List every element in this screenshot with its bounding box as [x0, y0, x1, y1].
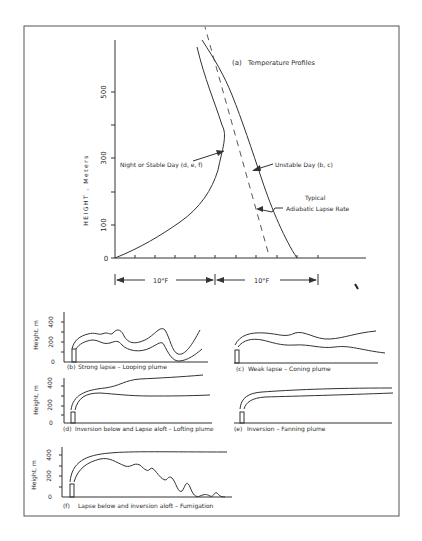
panel-f-ytick-0: 0: [48, 493, 52, 500]
figure: 0 100 300 500 HEIGHT , Meters (a) Temper…: [0, 0, 422, 541]
adiabatic-label-typical: Typical: [304, 194, 326, 202]
adiabatic-label: Adiabatic Lapse Rate: [286, 205, 349, 213]
panel-d-caption: Inversion below and Lapse aloft – Loftin…: [75, 426, 214, 433]
panel-f-caption: Lapse below and inversion aloft – Fumiga…: [78, 502, 214, 510]
panel-d-ytick-400: 400: [46, 377, 53, 389]
adiabatic-arrowhead: [256, 206, 263, 212]
figure-frame: [24, 26, 399, 516]
stable-label: Night or Stable Day (d, e, f): [120, 161, 203, 169]
panel-c-letter: (c): [236, 365, 244, 372]
panel-b-letter: (b): [67, 363, 76, 370]
panel-e: (e) Inversion – Fanning plume: [234, 388, 393, 433]
panel-f-ylabel: Height, m: [30, 460, 38, 490]
y-ticks: [111, 92, 115, 258]
unstable-arrowhead: [252, 165, 261, 171]
stack: [70, 484, 74, 497]
panel-e-caption: Inversion – Fanning plume: [247, 425, 326, 433]
scale-right-label: 10°F: [254, 277, 270, 285]
panel-b: 0 200 400 Height, m (b) Strong lapse – L…: [32, 312, 208, 371]
panel-d-ytick-200: 200: [46, 399, 53, 411]
panel-b-ytick-0: 0: [51, 358, 55, 365]
panel-f-letter: (f): [63, 502, 70, 509]
panel-a-letter: (a): [232, 59, 242, 67]
stable-arrowhead: [216, 150, 224, 156]
ytick-300: 300: [100, 151, 108, 164]
panel-c: (c) Weak lapse – Coning plume: [234, 331, 385, 373]
panel-f-ytick-200: 200: [45, 470, 52, 482]
panel-b-ytick-400: 400: [47, 316, 54, 328]
panel-e-letter: (e): [234, 425, 242, 432]
stack: [240, 412, 244, 423]
ytick-100: 100: [100, 218, 108, 231]
panel-f: 0 200 400 Height, m (f) Lapse below and …: [30, 447, 232, 510]
ytick-0: 0: [104, 255, 108, 263]
panel-f-ytick-400: 400: [45, 449, 52, 461]
main-chart: 0 100 300 500 HEIGHT , Meters (a) Temper…: [82, 27, 366, 289]
scale-left-label: 10°F: [153, 277, 169, 285]
panel-d-ytick-0: 0: [49, 419, 53, 426]
panel-b-caption: Strong lapse – Looping plume: [78, 363, 167, 371]
panel-b-ylabel: Height, m: [32, 320, 40, 350]
stack: [235, 350, 239, 363]
unstable-label: Unstable Day (b, c): [275, 161, 333, 169]
stable-profile-curve: [115, 47, 225, 258]
stray-mark: [355, 284, 358, 289]
temperature-scale: 10°F 10°F: [115, 274, 318, 285]
panel-d-ylabel: Height, m: [32, 385, 40, 415]
panel-d: 0 200 400 Height, m (d) Inversion below …: [32, 375, 214, 433]
main-chart-title: Temperature Profiles: [247, 59, 315, 67]
panel-c-caption: Weak lapse – Coning plume: [248, 365, 331, 373]
ytick-500: 500: [100, 85, 108, 98]
stack: [71, 412, 75, 423]
y-axis-label: HEIGHT , Meters: [82, 154, 89, 226]
panel-b-ytick-200: 200: [47, 336, 54, 348]
panel-d-letter: (d): [63, 425, 72, 432]
unstable-profile-curve: [202, 40, 297, 258]
stack: [72, 349, 76, 362]
